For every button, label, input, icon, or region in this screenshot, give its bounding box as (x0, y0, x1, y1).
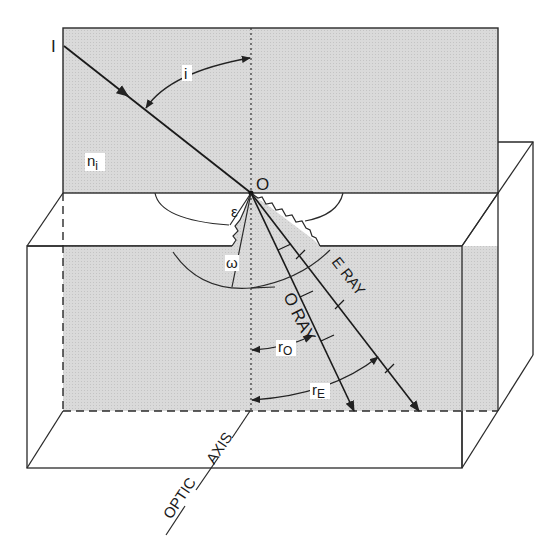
refraction-plane (63, 193, 462, 411)
right-surface-arc (305, 193, 343, 221)
epsilon-label: ε (231, 203, 238, 220)
angle-i-label: i (184, 65, 187, 82)
optic-axis (166, 411, 250, 535)
incident-point-label: I (51, 37, 56, 56)
birefringence-diagram: AXIS OPTIC I i ni O ε ω O RAY E RAY rO (0, 0, 560, 558)
incident-plane (63, 28, 498, 193)
epsilon-arc (155, 193, 229, 225)
omega-label: ω (226, 254, 238, 271)
optic-axis-label-axis: AXIS (202, 429, 235, 467)
origin-label: O (256, 175, 269, 194)
